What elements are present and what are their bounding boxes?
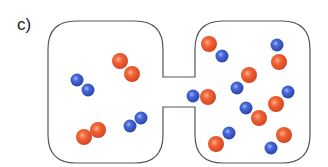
nitrogen-atom [231, 82, 244, 95]
nitrogen-atom [223, 127, 236, 140]
nitrogen-atom [282, 86, 295, 99]
oxygen-atom [124, 66, 140, 82]
oxygen-atom [271, 54, 287, 70]
oxygen-atom [268, 96, 284, 112]
oxygen-atom [200, 89, 216, 105]
two-bulb-apparatus-diagram [0, 0, 328, 167]
oxygen-atom [201, 36, 217, 52]
oxygen-atom [112, 53, 128, 69]
oxygen-atom [251, 110, 267, 126]
oxygen-atom [241, 67, 257, 83]
oxygen-atom [90, 122, 106, 138]
oxygen-atom [208, 136, 224, 152]
nitrogen-atom [271, 39, 284, 52]
nitrogen-atom [82, 84, 95, 97]
oxygen-atom [276, 127, 292, 143]
nitrogen-atom [187, 90, 200, 103]
nitrogen-atom [265, 142, 278, 155]
nitrogen-atom [135, 112, 148, 125]
nitrogen-atom [240, 102, 253, 115]
oxygen-atom [76, 129, 92, 145]
nitrogen-atom [124, 120, 137, 133]
nitrogen-atom [71, 74, 84, 87]
nitrogen-atom [216, 50, 229, 63]
